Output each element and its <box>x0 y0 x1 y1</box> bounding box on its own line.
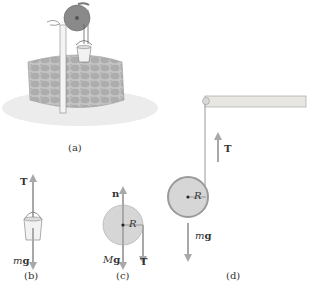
label-b-g: g <box>22 255 29 266</box>
caption-b: (b) <box>24 270 38 281</box>
label-d-weight: mg <box>195 230 211 241</box>
physics-figure <box>0 0 311 288</box>
label-c-radius: R <box>129 218 137 229</box>
rotation-arrow-icon <box>78 3 89 5</box>
caption-a: (a) <box>68 142 82 153</box>
label-d-radius: R <box>194 190 202 201</box>
caption-d: (d) <box>226 270 240 281</box>
label-c-normal: n <box>112 188 119 199</box>
label-d-g: g <box>204 230 211 241</box>
caption-c: (c) <box>116 270 129 281</box>
label-d-tension: T <box>224 143 231 154</box>
hanging-disk-diagram <box>168 96 306 258</box>
wooden-beam <box>205 96 306 107</box>
well-illustration <box>2 3 158 126</box>
label-c-mass: M <box>103 254 113 265</box>
label-b-tension: T <box>20 176 27 187</box>
label-c-g: g <box>113 254 120 265</box>
label-c-weight: Mg <box>103 254 120 265</box>
label-b-weight: mg <box>13 255 29 266</box>
label-c-tension: T <box>140 256 147 267</box>
bucket-free-body-diagram <box>24 178 42 266</box>
